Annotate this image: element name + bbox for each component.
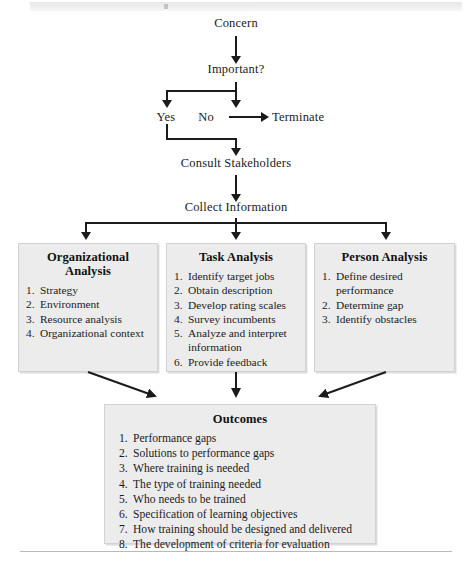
box-title-task-analysis: Task Analysis	[167, 244, 305, 264]
list-number: 7.	[119, 522, 128, 537]
box-list-organizational-analysis: 1.Strategy 2.Environment 3.Resource anal…	[19, 283, 157, 340]
list-text: The development of criteria for evaluati…	[133, 538, 330, 551]
connector-concern-important	[235, 36, 237, 58]
list-text: Define desired performance	[336, 270, 403, 296]
list-number: 4.	[26, 326, 35, 340]
list-number: 6.	[119, 507, 128, 522]
box-list-person-analysis: 1.Define desired performance 2.Determine…	[315, 269, 454, 326]
list-item: 3.Where training is needed	[119, 461, 371, 476]
list-item: 6.Provide feedback	[174, 355, 301, 369]
list-number: 3.	[174, 298, 183, 312]
list-item: 1.Identify target jobs	[174, 269, 301, 283]
list-item: 2.Obtain description	[174, 283, 301, 297]
arrow-organizational-to-outcomes	[88, 372, 155, 396]
list-number: 5.	[174, 326, 183, 340]
header-speck	[164, 4, 168, 9]
list-text: Identify obstacles	[336, 313, 417, 325]
connector-yes-elbow	[166, 138, 237, 140]
list-number: 1.	[119, 431, 128, 446]
list-item: 2.Environment	[26, 297, 153, 311]
list-text: Identify target jobs	[188, 270, 274, 282]
footer-rule	[20, 551, 452, 552]
list-text: Develop rating scales	[188, 299, 286, 311]
list-text: Obtain description	[188, 284, 272, 296]
arrowhead-consult	[231, 148, 241, 156]
list-item: 1.Performance gaps	[119, 431, 371, 446]
connector-important-split	[166, 90, 237, 92]
box-outcomes[interactable]: Outcomes 1.Performance gaps 2.Solutions …	[104, 404, 376, 544]
list-item: 2.Determine gap	[322, 298, 450, 312]
list-item: 4.Survey incumbents	[174, 312, 301, 326]
box-title-outcomes: Outcomes	[105, 405, 375, 426]
list-text: Analyze and interpret information	[188, 327, 287, 353]
list-number: 3.	[322, 312, 331, 326]
arrowhead-task	[231, 232, 241, 240]
list-item: 4.Organizational context	[26, 326, 153, 340]
list-text: The type of training needed	[133, 478, 261, 491]
list-number: 1.	[322, 269, 331, 283]
list-text: Specification of learning objectives	[133, 508, 298, 521]
list-number: 2.	[174, 283, 183, 297]
box-title-person-analysis: Person Analysis	[315, 244, 454, 264]
box-list-task-analysis: 1.Identify target jobs 2.Obtain descript…	[167, 269, 305, 369]
arrowhead-terminate	[261, 112, 269, 122]
node-concern: Concern	[176, 16, 296, 31]
list-text: Where training is needed	[133, 462, 249, 475]
page-header-band	[30, 2, 462, 11]
list-number: 4.	[174, 312, 183, 326]
list-number: 6.	[174, 355, 183, 369]
node-consult-stakeholders: Consult Stakeholders	[146, 156, 326, 171]
arrow-person-to-outcomes	[320, 372, 386, 396]
list-item: 4.The type of training needed	[119, 477, 371, 492]
list-item: 5.Who needs to be trained	[119, 492, 371, 507]
list-item: 5.Analyze and interpret information	[174, 326, 301, 355]
list-item: 3.Identify obstacles	[322, 312, 450, 326]
list-item: 7.How training should be designed and de…	[119, 522, 371, 537]
box-title-line2: Analysis	[65, 264, 111, 278]
node-collect-information: Collect Information	[156, 200, 316, 215]
node-terminate: Terminate	[272, 110, 362, 125]
list-text: How training should be designed and deli…	[133, 523, 352, 536]
list-number: 3.	[119, 461, 128, 476]
list-item: 3.Develop rating scales	[174, 298, 301, 312]
box-organizational-analysis[interactable]: Organizational Analysis 1.Strategy 2.Env…	[18, 243, 158, 372]
list-number: 2.	[26, 297, 35, 311]
arrowhead-no	[231, 100, 241, 108]
list-number: 2.	[119, 446, 128, 461]
arrowhead-yes	[162, 100, 172, 108]
list-text: Environment	[40, 298, 99, 310]
list-text: Who needs to be trained	[133, 493, 246, 506]
list-number: 5.	[119, 492, 128, 507]
node-yes: Yes	[146, 110, 186, 125]
node-no: No	[190, 110, 222, 125]
box-list-outcomes: 1.Performance gaps 2.Solutions to perfor…	[105, 431, 375, 553]
connector-no-terminate	[229, 116, 263, 118]
arrowhead-organizational	[81, 232, 91, 240]
list-text: Survey incumbents	[188, 313, 276, 325]
list-text: Resource analysis	[40, 313, 122, 325]
list-item: 6.Specification of learning objectives	[119, 507, 371, 522]
list-item: 1.Define desired performance	[322, 269, 450, 298]
list-number: 2.	[322, 298, 331, 312]
list-text: Strategy	[40, 284, 78, 296]
list-number: 3.	[26, 312, 35, 326]
arrowhead-person	[381, 232, 391, 240]
box-title-line1: Organizational	[47, 250, 129, 264]
node-important: Important?	[176, 62, 296, 77]
box-person-analysis[interactable]: Person Analysis 1.Define desired perform…	[314, 243, 455, 372]
list-text: Solutions to performance gaps	[133, 447, 274, 460]
list-text: Determine gap	[336, 299, 403, 311]
list-text: Organizational context	[40, 327, 144, 339]
list-item: 3.Resource analysis	[26, 312, 153, 326]
figure-canvas: Concern Important? Yes No Terminate Cons…	[0, 0, 475, 567]
list-text: Provide feedback	[188, 356, 267, 368]
box-task-analysis[interactable]: Task Analysis 1.Identify target jobs 2.O…	[166, 243, 306, 372]
list-text: Performance gaps	[133, 432, 216, 445]
list-item: 2.Solutions to performance gaps	[119, 446, 371, 461]
list-number: 1.	[26, 283, 35, 297]
list-item: 1.Strategy	[26, 283, 153, 297]
box-title-organizational-analysis: Organizational Analysis	[19, 244, 157, 278]
list-number: 1.	[174, 269, 183, 283]
list-number: 4.	[119, 477, 128, 492]
